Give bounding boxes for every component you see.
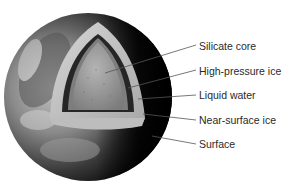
label-high-pressure-ice: High-pressure ice — [199, 65, 281, 77]
label-silicate-core: Silicate core — [199, 40, 256, 52]
label-liquid-water: Liquid water — [199, 89, 256, 101]
moon-cutaway-diagram — [0, 0, 302, 185]
label-surface: Surface — [199, 138, 235, 150]
label-near-surface-ice: Near-surface ice — [199, 114, 276, 126]
